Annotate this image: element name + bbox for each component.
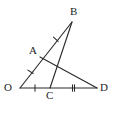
vertex-label-o: O [4,82,12,93]
vertex-label-c: C [46,90,53,101]
vertex-label-d: D [100,82,108,93]
vertex-label-b: B [70,6,77,17]
segment-CB [50,22,72,88]
geometry-figure: O A B C D [0,0,114,113]
segment-OB [20,22,72,88]
tick-AB [53,37,58,41]
segment-AD [40,57,97,88]
vertex-label-a: A [29,45,37,56]
geometry-canvas [0,0,114,113]
